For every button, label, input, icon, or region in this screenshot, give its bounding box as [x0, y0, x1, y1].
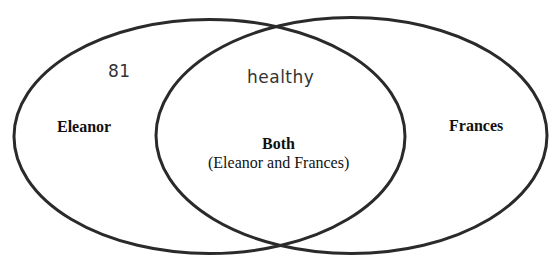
intersection-label: Both: [262, 135, 295, 153]
intersection-entry: healthy: [247, 67, 314, 87]
eleanor-entry: 81: [108, 61, 131, 81]
eleanor-set-label: Eleanor: [57, 118, 111, 136]
frances-set-label: Frances: [449, 117, 503, 135]
intersection-sublabel: (Eleanor and Frances): [208, 154, 349, 172]
